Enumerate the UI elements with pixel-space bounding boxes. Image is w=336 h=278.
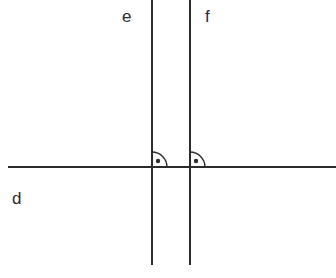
line-label-e: e xyxy=(122,8,131,25)
geometry-canvas xyxy=(0,0,336,278)
line-label-d: d xyxy=(12,190,21,207)
right-angle-dot-d-e xyxy=(156,159,160,163)
geometry-diagram: e f d xyxy=(0,0,336,278)
line-label-f: f xyxy=(205,8,210,25)
right-angle-dot-d-f xyxy=(194,159,198,163)
